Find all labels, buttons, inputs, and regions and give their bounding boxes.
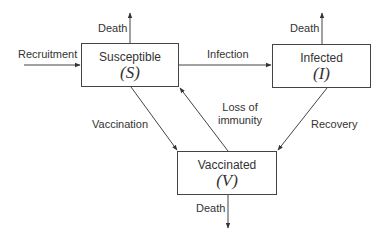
node-infected: Infected (I) (272, 44, 371, 88)
label-loss-line1: Loss of (210, 101, 270, 114)
node-infected-title: Infected (273, 51, 370, 65)
label-death-v: Death (196, 202, 225, 214)
label-recruitment: Recruitment (18, 48, 77, 60)
label-loss-line2: immunity (210, 114, 270, 127)
label-recovery: Recovery (311, 118, 357, 130)
node-vaccinated: Vaccinated (V) (177, 151, 277, 195)
label-loss-of-immunity: Loss of immunity (210, 101, 270, 127)
node-susceptible: Susceptible (S) (81, 43, 179, 87)
node-vaccinated-title: Vaccinated (178, 158, 276, 172)
node-infected-symbol: (I) (273, 65, 370, 83)
label-infection: Infection (207, 48, 249, 60)
node-vaccinated-symbol: (V) (178, 172, 276, 190)
label-vaccination: Vaccination (92, 118, 148, 130)
node-susceptible-title: Susceptible (82, 50, 178, 64)
label-death-s: Death (98, 22, 127, 34)
node-susceptible-symbol: (S) (82, 64, 178, 82)
label-death-i: Death (290, 22, 319, 34)
